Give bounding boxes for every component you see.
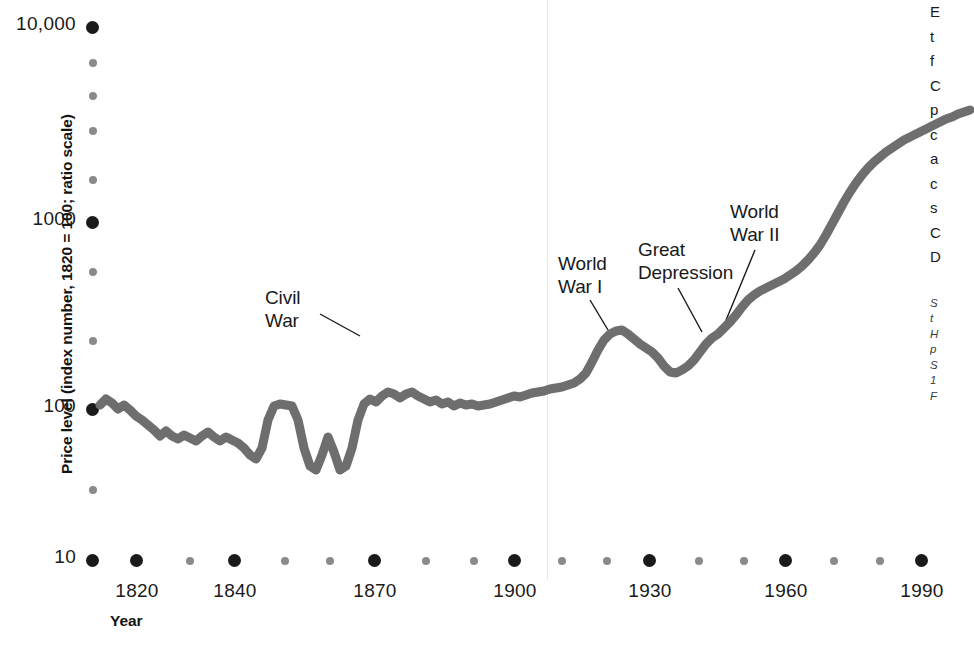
x-tick-dot-major-1990	[915, 554, 928, 567]
x-tick-label-1930: 1930	[609, 580, 691, 602]
x-tick-label-1900: 1900	[474, 580, 556, 602]
x-tick-dot-major-1820	[130, 554, 143, 567]
y-tick-dot-minor-2000	[89, 127, 97, 135]
side-source-line: S	[930, 358, 974, 374]
x-tick-label-1870: 1870	[334, 580, 416, 602]
side-source-line: p	[930, 342, 974, 358]
x-tick-dot-minor-1940	[695, 557, 703, 565]
side-body-line: c	[930, 172, 974, 197]
side-text-column: E t f C p c a c s C D S t H p S 1 F	[930, 0, 974, 404]
side-body-line: c	[930, 123, 974, 148]
plot-area	[0, 0, 974, 650]
x-tick-dot-minor-1860	[326, 557, 334, 565]
price-level-chart-figure: Price level (index number, 1820 = 100; r…	[0, 0, 974, 650]
side-body-line: D	[930, 245, 974, 270]
y-tick-label-10000: 10,000	[16, 13, 76, 35]
side-body-line: C	[930, 221, 974, 246]
side-body-line: E	[930, 0, 974, 25]
side-body-line: p	[930, 98, 974, 123]
y-tick-dot-major-100	[86, 403, 99, 416]
x-axis-title: Year	[110, 612, 142, 630]
side-source-line: F	[930, 389, 974, 405]
side-body-text: E t f C p c a c s C D	[930, 0, 974, 270]
y-tick-dot-minor-5000	[89, 59, 97, 67]
annotation-great-depression: Great Depression	[638, 238, 733, 284]
x-tick-dot-minor-1920	[603, 557, 611, 565]
side-body-line: f	[930, 49, 974, 74]
x-tick-label-1960: 1960	[745, 580, 827, 602]
side-body-line: s	[930, 196, 974, 221]
y-tick-label-100: 100	[43, 395, 76, 417]
x-tick-dot-minor-1890	[470, 557, 478, 565]
side-source-line: S	[930, 296, 974, 312]
side-body-line: a	[930, 147, 974, 172]
side-source-line: 1	[930, 373, 974, 389]
x-tick-dot-major-1840	[228, 554, 241, 567]
x-tick-label-1820: 1820	[96, 580, 178, 602]
y-tick-dot-minor-500	[89, 268, 97, 276]
y-tick-dot-minor-250	[89, 337, 97, 345]
x-tick-dot-minor-1970	[830, 557, 838, 565]
y-tick-dot-minor-3000	[89, 92, 97, 100]
y-tick-label-10: 10	[54, 546, 76, 568]
annotation-civil-war: Civil War	[265, 286, 300, 332]
annotation-world-war-ii: World War II	[730, 200, 779, 246]
y-tick-dot-major-1000	[86, 216, 99, 229]
y-tick-label-1000: 1000	[33, 208, 76, 230]
side-body-line: C	[930, 74, 974, 99]
x-tick-label-1990: 1990	[881, 580, 963, 602]
y-tick-dot-major-10000	[86, 21, 99, 34]
y-tick-dot-minor-50	[89, 486, 97, 494]
x-tick-dot-major-1900	[508, 554, 521, 567]
side-source-line: H	[930, 327, 974, 343]
x-tick-dot-major-1870	[368, 554, 381, 567]
x-tick-dot-minor-1830	[186, 557, 194, 565]
x-tick-dot-minor-1950	[740, 557, 748, 565]
price-level-line	[100, 110, 970, 470]
y-tick-dot-minor-1500	[89, 176, 97, 184]
annotation-world-war-i: World War I	[558, 252, 607, 298]
y-axis-title: Price level (index number, 1820 = 100; r…	[58, 79, 76, 509]
side-source-line: t	[930, 311, 974, 327]
vertical-guide-rule	[547, 0, 548, 580]
x-tick-dot-minor-1910	[558, 557, 566, 565]
x-tick-dot-major-1930	[643, 554, 656, 567]
x-tick-label-1840: 1840	[194, 580, 276, 602]
x-tick-dot-major-1960	[779, 554, 792, 567]
y-tick-dot-major-10	[86, 554, 99, 567]
side-source-note: S t H p S 1 F	[930, 296, 974, 405]
x-tick-dot-minor-1980	[876, 557, 884, 565]
x-tick-dot-minor-1880	[422, 557, 430, 565]
x-tick-dot-minor-1850	[281, 557, 289, 565]
side-body-line: t	[930, 25, 974, 50]
